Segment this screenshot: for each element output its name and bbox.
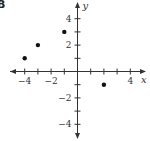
y-tick-label: −2 xyxy=(58,93,71,103)
y-axis-arrow-down-icon xyxy=(75,133,80,139)
y-tick-label: 4 xyxy=(66,14,72,24)
data-point xyxy=(23,56,27,60)
data-point xyxy=(36,43,40,47)
x-tick-label: 4 xyxy=(127,76,133,86)
y-axis-arrow-up-icon xyxy=(75,2,80,8)
x-tick-label: −2 xyxy=(44,76,57,86)
data-point xyxy=(102,83,106,87)
scatter-plot: −4−2442−2−4xy xyxy=(0,0,150,141)
data-point xyxy=(62,30,66,34)
x-tick-label: −4 xyxy=(18,76,32,86)
y-axis-label: y xyxy=(82,0,89,11)
y-tick-label: −4 xyxy=(58,119,72,129)
y-tick-label: 2 xyxy=(66,40,72,50)
x-axis-arrow-left-icon xyxy=(10,69,16,74)
x-axis-label: x xyxy=(141,74,147,85)
